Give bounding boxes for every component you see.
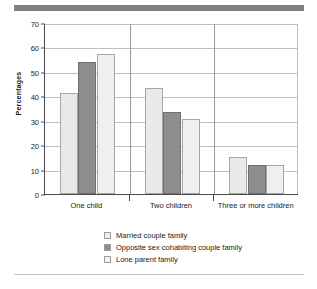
legend-label: Opposite sex cohabiting couple family bbox=[116, 243, 242, 252]
legend-item[interactable]: Lone parent family bbox=[104, 253, 242, 265]
bottom-rule-divider bbox=[14, 274, 304, 275]
bar bbox=[266, 165, 284, 194]
legend-swatch-icon bbox=[104, 256, 111, 263]
legend-item[interactable]: Married couple family bbox=[104, 229, 242, 241]
chart-legend: Married couple familyOpposite sex cohabi… bbox=[104, 229, 242, 265]
y-tick-mark-0 bbox=[41, 195, 45, 196]
x-axis-label-2: Three or more children bbox=[213, 201, 298, 211]
bar bbox=[145, 88, 163, 194]
legend-swatch-icon bbox=[104, 244, 111, 251]
bar bbox=[163, 112, 181, 194]
legend-label: Lone parent family bbox=[116, 255, 178, 264]
bar bbox=[60, 93, 78, 194]
bar bbox=[229, 157, 247, 194]
legend-swatch-icon bbox=[104, 232, 111, 239]
x-axis-label-0: One child bbox=[44, 201, 129, 211]
figure-container: Percentages 010203040506070 One childTwo… bbox=[0, 0, 317, 289]
bar bbox=[182, 119, 200, 194]
y-axis-title: Percentages bbox=[15, 54, 22, 134]
bar bbox=[248, 165, 266, 194]
plot-area: 010203040506070 bbox=[44, 24, 298, 195]
legend-label: Married couple family bbox=[116, 231, 187, 240]
bar bbox=[97, 54, 115, 194]
legend-item[interactable]: Opposite sex cohabiting couple family bbox=[104, 241, 242, 253]
top-rule-divider bbox=[14, 5, 304, 11]
bar bbox=[78, 62, 96, 194]
bars-layer bbox=[45, 24, 298, 194]
x-axis-label-1: Two children bbox=[129, 201, 214, 211]
